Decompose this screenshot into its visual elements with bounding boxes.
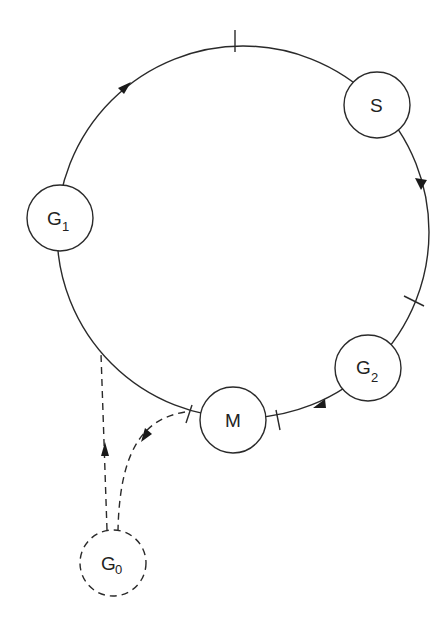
dashed-path-g0-to-g1	[101, 354, 107, 530]
node-g2: G 2	[335, 335, 401, 401]
svg-text:G: G	[356, 357, 371, 378]
svg-text:2: 2	[371, 370, 378, 385]
svg-text:S: S	[370, 95, 383, 116]
checkpoint-tick-m-left	[186, 405, 192, 423]
svg-text:1: 1	[62, 219, 69, 234]
svg-text:0: 0	[115, 562, 122, 577]
arrow-g0-up-icon	[101, 442, 109, 456]
cell-cycle-diagram: G 1 S G 2 M G 0	[0, 0, 446, 627]
arrow-s-to-g2-icon	[415, 178, 427, 190]
dashed-path-m-to-g0	[118, 412, 185, 530]
node-g1: G 1	[27, 185, 93, 251]
node-s: S	[344, 72, 410, 138]
node-m: M	[200, 387, 266, 453]
checkpoint-tick-m-right	[276, 410, 280, 430]
svg-text:G: G	[47, 208, 62, 229]
svg-text:G: G	[101, 553, 116, 574]
node-g0: G 0	[80, 530, 146, 596]
svg-text:M: M	[225, 410, 241, 431]
